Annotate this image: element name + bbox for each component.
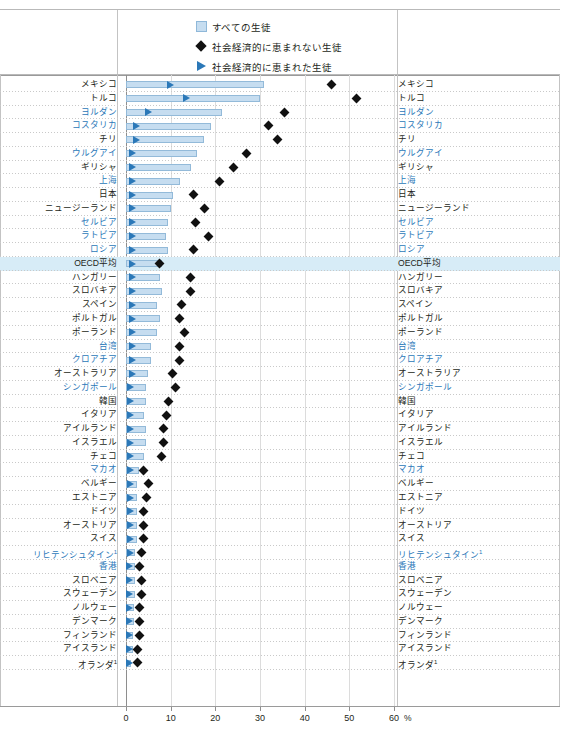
chart-row: イタリアイタリア: [0, 408, 560, 422]
marker-disadvantaged: [159, 424, 169, 434]
row-plot-area: [0, 133, 560, 147]
row-plot-area: [0, 312, 560, 326]
chart-row: ベルギーベルギー: [0, 477, 560, 491]
marker-disadvantaged: [134, 617, 144, 627]
chart-row: 台湾台湾: [0, 340, 560, 354]
row-plot-area: [0, 629, 560, 643]
marker-advantaged: [129, 342, 136, 350]
marker-advantaged: [129, 370, 136, 378]
marker-disadvantaged: [134, 603, 144, 613]
marker-disadvantaged: [351, 94, 361, 104]
chart-row: チリチリ: [0, 133, 560, 147]
square-swatch-icon: [196, 21, 207, 32]
chart-row: OECD平均OECD平均: [0, 257, 560, 271]
chart-row: スロベニアスロベニア: [0, 574, 560, 588]
marker-advantaged: [129, 273, 136, 281]
marker-disadvantaged: [175, 355, 185, 365]
chart-row: アイルランドアイルランド: [0, 422, 560, 436]
x-tick-label-0: 0: [123, 713, 128, 723]
marker-disadvantaged: [177, 300, 187, 310]
marker-disadvantaged: [141, 493, 151, 503]
legend-items: すべての生徒 社会経済的に恵まれない生徒 社会経済的に恵まれた生徒: [196, 18, 342, 78]
marker-advantaged: [145, 108, 152, 116]
marker-advantaged: [126, 576, 133, 584]
diamond-marker-icon: [196, 41, 207, 52]
marker-advantaged: [126, 604, 133, 612]
row-plot-area: [0, 106, 560, 120]
chart-row: スウェーデンスウェーデン: [0, 587, 560, 601]
marker-disadvantaged: [137, 548, 147, 558]
marker-advantaged: [127, 383, 134, 391]
x-tick-40: [305, 707, 306, 711]
row-plot-area: [0, 298, 560, 312]
row-plot-area: [0, 119, 560, 133]
chart-row: セルビアセルビア: [0, 216, 560, 230]
marker-advantaged: [129, 315, 136, 323]
marker-advantaged: [133, 136, 140, 144]
bar-all-students: [126, 109, 222, 116]
x-tick-label-50: 50: [344, 713, 354, 723]
chart-row: スロバキアスロバキア: [0, 284, 560, 298]
chart-row: スイススイス: [0, 532, 560, 546]
row-plot-area: [0, 340, 560, 354]
marker-advantaged: [126, 590, 133, 598]
chart-row: マカオマカオ: [0, 463, 560, 477]
chart-row: ハンガリーハンガリー: [0, 271, 560, 285]
bar-all-students: [126, 95, 260, 102]
marker-disadvantaged: [161, 410, 171, 420]
row-plot-area: [0, 174, 560, 188]
row-plot-area: [0, 656, 560, 670]
chart-row: ノルウェーノルウェー: [0, 601, 560, 615]
x-tick-label-40: 40: [300, 713, 310, 723]
legend-divider-left: [117, 10, 118, 74]
marker-disadvantaged: [139, 520, 149, 530]
row-plot-area: [0, 353, 560, 367]
chart-row: ポーランドポーランド: [0, 326, 560, 340]
chart-row: 韓国韓国: [0, 395, 560, 409]
chart-row: メキシコメキシコ: [0, 78, 560, 92]
marker-advantaged: [129, 301, 136, 309]
chart-row: トルコトルコ: [0, 92, 560, 106]
cropped-header-strip: ————————————————————————: [0, 0, 561, 9]
row-plot-area: [0, 257, 560, 271]
x-tick-50: [349, 707, 350, 711]
marker-disadvantaged: [139, 465, 149, 475]
marker-disadvantaged: [175, 314, 185, 324]
x-tick-20: [215, 707, 216, 711]
row-plot-area: [0, 491, 560, 505]
x-axis: 0102030405060%: [0, 707, 560, 737]
legend-label-all-students: すべての生徒: [212, 20, 271, 34]
marker-advantaged: [183, 94, 190, 102]
marker-advantaged: [127, 452, 134, 460]
legend-label-advantaged: 社会経済的に恵まれた生徒: [212, 60, 332, 74]
marker-advantaged: [129, 328, 136, 336]
chart-row: ヨルダンヨルダン: [0, 106, 560, 120]
marker-disadvantaged: [134, 630, 144, 640]
row-plot-area: [0, 587, 560, 601]
marker-disadvantaged: [186, 286, 196, 296]
chart-row: オーストリアオーストリア: [0, 519, 560, 533]
row-plot-area: [0, 450, 560, 464]
chart-row: シンガポールシンガポール: [0, 381, 560, 395]
chart-row: アイスランドアイスランド: [0, 642, 560, 656]
marker-advantaged: [126, 631, 133, 639]
marker-disadvantaged: [242, 149, 252, 159]
marker-advantaged: [127, 535, 134, 543]
chart-rows: メキシコメキシコトルコトルコヨルダンヨルダンコスタリカコスタリカチリチリウルグア…: [0, 78, 560, 670]
legend-panel: すべての生徒 社会経済的に恵まれない生徒 社会経済的に恵まれた生徒: [0, 9, 560, 75]
marker-disadvantaged: [188, 245, 198, 255]
marker-advantaged: [127, 507, 134, 515]
chart-row: オランダ1オランダ1: [0, 656, 560, 670]
row-plot-area: [0, 408, 560, 422]
marker-advantaged: [126, 659, 133, 667]
marker-advantaged: [127, 466, 134, 474]
chart-row: ラトビアラトビア: [0, 229, 560, 243]
marker-advantaged: [127, 411, 134, 419]
marker-disadvantaged: [157, 451, 167, 461]
row-plot-area: [0, 78, 560, 92]
row-plot-area: [0, 284, 560, 298]
marker-disadvantaged: [273, 135, 283, 145]
chart-row: ロシアロシア: [0, 243, 560, 257]
marker-disadvantaged: [175, 341, 185, 351]
marker-advantaged: [127, 521, 134, 529]
